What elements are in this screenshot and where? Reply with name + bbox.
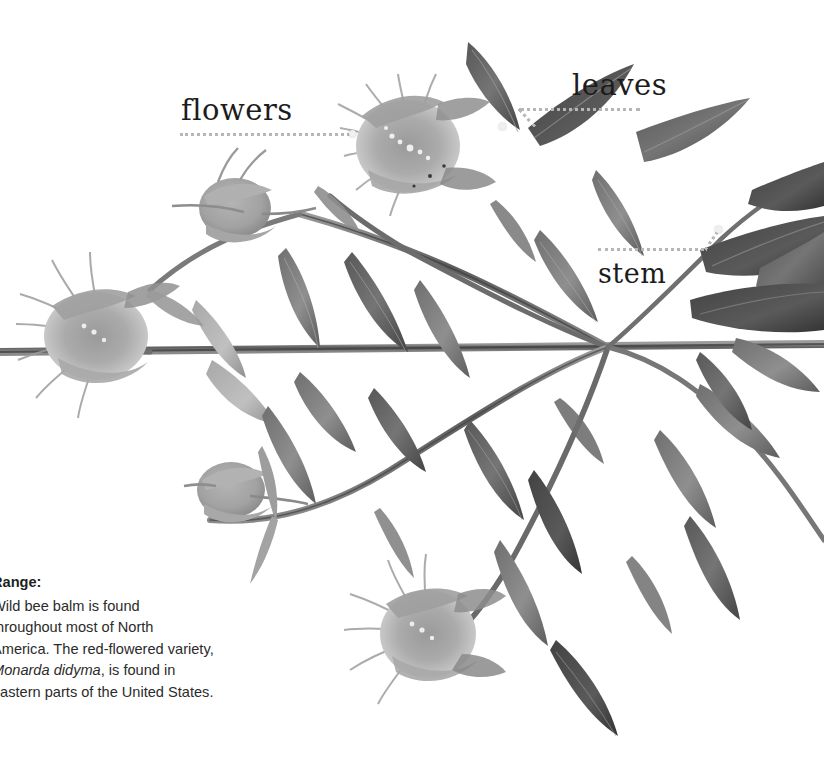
range-body: Wild bee balm is found throughout most o… bbox=[0, 596, 232, 704]
botanical-specimen-page: flowers leaves stem Range: Wild bee balm… bbox=[0, 0, 824, 771]
callout-stem-leader-line bbox=[598, 248, 704, 254]
callout-flowers-leader-line bbox=[180, 133, 350, 139]
callout-leaves-leader-line bbox=[520, 108, 640, 114]
range-line-1: Wild bee balm is found bbox=[0, 598, 140, 614]
callout-flowers-marker-dot bbox=[349, 130, 356, 137]
flower-head-left bbox=[16, 252, 180, 418]
callout-leaves-label: leaves bbox=[572, 68, 667, 102]
range-line-5: eastern parts of the United States. bbox=[0, 684, 213, 700]
callout-stem-label: stem bbox=[598, 258, 666, 289]
range-line-3: America. The red-flowered variety, bbox=[0, 641, 214, 657]
range-text-block: Range: Wild bee balm is found throughout… bbox=[0, 572, 232, 703]
callout-stem: stem bbox=[598, 258, 666, 289]
callout-leaves: leaves bbox=[572, 68, 667, 102]
flower-head-top bbox=[338, 74, 496, 216]
flower-head-bottom bbox=[344, 554, 506, 704]
callout-flowers: flowers bbox=[181, 93, 293, 127]
callout-leaves-marker-dot bbox=[499, 123, 506, 130]
callout-flowers-label: flowers bbox=[181, 93, 293, 127]
bud-upper-left bbox=[172, 148, 316, 242]
range-heading: Range: bbox=[0, 572, 232, 594]
leaf-group-lower bbox=[464, 384, 780, 736]
range-line-4-tail: , is found in bbox=[101, 662, 176, 678]
range-species-name: Monarda didyma bbox=[0, 662, 101, 678]
callout-stem-marker-dot bbox=[715, 226, 722, 233]
range-line-2: throughout most of North bbox=[0, 619, 153, 635]
